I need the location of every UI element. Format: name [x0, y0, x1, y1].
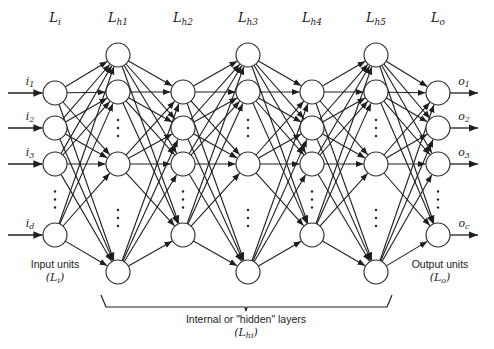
input-caption: Input units (Li) — [31, 258, 79, 285]
neuron-node — [171, 116, 195, 140]
ellipsis-dot — [437, 190, 439, 192]
layer-label-lh2: Lh2 — [172, 10, 193, 27]
connection-edge — [254, 65, 306, 153]
ellipsis-dot — [311, 198, 313, 200]
neuron-node — [43, 223, 67, 247]
ellipsis-dot — [182, 198, 184, 200]
neuron-node — [426, 116, 450, 140]
ellipsis-dot — [247, 135, 249, 137]
connection-edge — [386, 98, 427, 122]
ellipsis-dot — [375, 135, 377, 137]
layer-labels: LiLh1Lh2Lh3Lh4Lh5Lo — [48, 10, 445, 27]
connection-edge — [124, 175, 176, 262]
neuron-node — [106, 260, 130, 284]
input-label: i2 — [26, 110, 35, 124]
ellipsis-dot — [311, 206, 313, 208]
connection-edge — [189, 66, 242, 154]
ellipsis-dot — [182, 206, 184, 208]
output-caption-text: Output units — [412, 258, 469, 270]
ellipsis-dot — [375, 209, 377, 211]
ellipsis-dot — [375, 217, 377, 219]
neuron-node — [300, 116, 324, 140]
neuron-node — [426, 81, 450, 105]
connection-edge — [259, 134, 302, 158]
layer-label-lh1: Lh1 — [107, 10, 128, 27]
ellipsis-dot — [247, 217, 249, 219]
connection-edge — [322, 241, 365, 266]
ellipsis-dot — [117, 127, 119, 129]
ellipsis-dot — [117, 217, 119, 219]
connection-edge — [382, 175, 432, 262]
ellipsis-dot — [375, 225, 377, 227]
input-caption-text: Input units — [31, 258, 79, 270]
connection-edge — [128, 241, 172, 266]
input-label: i3 — [26, 146, 35, 160]
ellipsis-dot — [247, 209, 249, 211]
neuron-node — [300, 152, 324, 176]
ellipsis-dot — [182, 190, 184, 192]
ellipsis-dot — [437, 206, 439, 208]
connection-edge — [193, 241, 237, 266]
neuron-node — [426, 223, 450, 247]
neuron-node — [236, 80, 260, 104]
connection-edge — [322, 61, 365, 86]
layer-label-lh5: Lh5 — [365, 10, 386, 27]
neuron-node — [171, 80, 195, 104]
ellipsis-dot — [247, 119, 249, 121]
ellipsis-dot — [117, 135, 119, 137]
neural-network-diagram: LiLh1Lh2Lh3Lh4Lh5Lo i1i2i3ido1o2o3oc Inp… — [0, 0, 494, 349]
connection-edge — [187, 103, 244, 260]
output-label: o3 — [458, 146, 470, 160]
neuron-node — [364, 260, 388, 284]
output-label: o1 — [458, 75, 470, 89]
connection-edge — [193, 61, 237, 86]
hidden-layers-brace — [101, 295, 392, 311]
output-caption-math: (Lo) — [430, 271, 451, 285]
neuron-node — [236, 43, 260, 67]
connection-edge — [318, 174, 370, 261]
neuron-node — [300, 223, 324, 247]
neuron-node — [300, 80, 324, 104]
connection-edge — [129, 134, 173, 158]
connection-edge — [258, 241, 301, 266]
hidden-caption-math: (Lhi) — [234, 326, 258, 340]
neuron-node — [106, 152, 130, 176]
output-label: o2 — [458, 110, 470, 124]
layer-label-lh4: Lh4 — [301, 10, 322, 27]
neuron-node — [106, 43, 130, 67]
ellipsis-dot — [247, 225, 249, 227]
input-label: id — [26, 217, 35, 231]
neuron-node — [171, 152, 195, 176]
input-caption-math: (Li) — [46, 271, 64, 285]
connection-edge — [189, 174, 241, 261]
output-caption: Output units (Lo) — [412, 258, 469, 285]
ellipsis-dot — [117, 209, 119, 211]
connection-edge — [129, 98, 173, 122]
neuron-node — [236, 260, 260, 284]
connection-edge — [61, 174, 112, 261]
neuron-node — [171, 223, 195, 247]
ellipsis-dot — [117, 225, 119, 227]
neuron-node — [364, 80, 388, 104]
connection-edge — [318, 66, 370, 154]
ellipsis-dot — [311, 190, 313, 192]
ellipsis-dot — [54, 190, 56, 192]
hidden-caption: Internal or "hidden" layers (Lhi) — [186, 313, 306, 340]
ellipsis-dot — [54, 198, 56, 200]
output-label: oc — [458, 217, 470, 231]
ellipsis-dot — [437, 198, 439, 200]
hidden-caption-text: Internal or "hidden" layers — [186, 313, 306, 325]
ellipsis-dot — [117, 119, 119, 121]
layer-label-lh3: Lh3 — [237, 10, 258, 27]
connection-edge — [388, 92, 426, 93]
neuron-node — [106, 80, 130, 104]
layer-label-lo: Lo — [430, 10, 446, 27]
ellipsis-dot — [247, 127, 249, 129]
ellipsis-dot — [54, 206, 56, 208]
neuron-node — [43, 152, 67, 176]
neuron-node — [364, 152, 388, 176]
neuron-node — [43, 116, 67, 140]
neuron-node — [236, 152, 260, 176]
neuron-node — [426, 152, 450, 176]
ellipsis-dot — [375, 119, 377, 121]
